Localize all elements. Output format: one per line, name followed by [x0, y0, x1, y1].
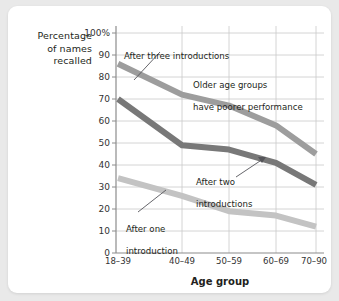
annotation-older-age-groups: Older age groups have poorer performance [193, 69, 303, 124]
annotation-older-age-groups-line-2: have poorer performance [193, 102, 303, 113]
x-tick-label-70-90: 70–90 [301, 256, 327, 266]
annotation-after-two-introductions-line-1: After two [196, 177, 252, 188]
x-tick-label-60-69: 60–69 [263, 256, 289, 266]
annotation-after-one-introduction: After one introduction [126, 213, 178, 268]
annotation-after-two-introductions: After two introductions [196, 166, 252, 221]
x-axis-title: Age group [116, 276, 324, 287]
annotation-older-age-groups-line-1: Older age groups [193, 80, 303, 91]
annotation-after-two-introductions-line-2: introductions [196, 199, 252, 210]
annotation-after-one-introduction-line-2: introduction [126, 246, 178, 257]
line-chart-figure: Percentage of names recalled 100% 90 80 … [0, 0, 339, 301]
x-tick-label-50-59: 50–59 [216, 256, 242, 266]
annotation-after-three-introductions-line-1: After three introductions [124, 51, 229, 62]
annotation-after-one-introduction-line-1: After one [126, 224, 178, 235]
